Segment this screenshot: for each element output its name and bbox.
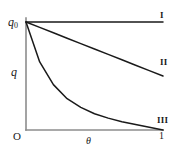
- chart-figure: q0 q O θ 1 I II III: [0, 0, 178, 160]
- y-axis-max-label: q0: [8, 16, 18, 28]
- x-axis-max-tick-label: 1: [159, 131, 164, 141]
- curve-three: [26, 22, 163, 130]
- curve-one-label: I: [160, 11, 164, 20]
- y-axis-max-subscript: 0: [14, 21, 18, 30]
- origin-label: O: [13, 131, 21, 142]
- y-axis-title: q: [11, 66, 17, 78]
- curve-two: [26, 22, 163, 76]
- curve-three-label: III: [157, 116, 168, 125]
- x-axis-title: θ: [86, 136, 91, 146]
- curve-two-label: II: [160, 58, 168, 67]
